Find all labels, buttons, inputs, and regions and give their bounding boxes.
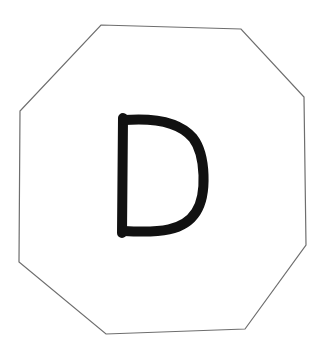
octagon-shape bbox=[19, 25, 306, 334]
letter-d-stem bbox=[122, 118, 123, 233]
diagram-svg bbox=[0, 0, 325, 359]
diagram-canvas: D bbox=[0, 0, 325, 359]
